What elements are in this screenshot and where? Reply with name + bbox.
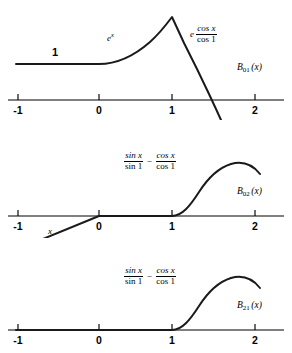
x-tick-label-0: 0 xyxy=(96,334,102,346)
formula-fraction-2: cos x cos 1 xyxy=(155,266,176,287)
x-tick-label-0: 0 xyxy=(96,220,102,232)
series-label-b21: B21(x) xyxy=(237,300,262,310)
plot-svg-b21: -1 0 1 2 xyxy=(0,236,292,353)
formula-operator: − xyxy=(145,157,153,166)
x-tick-label--1: -1 xyxy=(13,334,22,346)
formula-term2-numerator: cos x xyxy=(156,151,176,162)
formula-term1-denominator: sin 1 xyxy=(124,162,143,172)
plot-svg-b01: -1 0 1 2 xyxy=(0,0,292,120)
series-label-base: B xyxy=(237,186,243,196)
series-label-base: B xyxy=(237,300,243,310)
x-tick-label-2: 2 xyxy=(252,104,258,116)
x-label: x xyxy=(48,226,52,236)
formula-lead: e xyxy=(190,30,194,39)
constant-one-label: 1 xyxy=(52,46,58,58)
x-tick-label-2: 2 xyxy=(252,220,258,232)
exp-x-label: ex xyxy=(107,31,114,43)
plot-panel-b01: -1 0 1 2 1 ex e cos x cos 1 B01(x) xyxy=(0,0,292,120)
plot-panel-b02: -1 0 1 2 x sin x sin 1 − cos x cos 1 B02… xyxy=(0,118,292,238)
plot-panel-b21: -1 0 1 2 sin x sin 1 − cos x cos 1 B21(x… xyxy=(0,236,292,353)
series-label-sub: 21 xyxy=(243,304,250,312)
formula-fraction-1: sin x sin 1 xyxy=(124,266,143,287)
formula-numerator: cos x xyxy=(196,24,216,35)
formula-e-cos-label: e cos x cos 1 xyxy=(190,24,217,45)
series-label-sub: 02 xyxy=(243,190,250,198)
formula-sin-cos-label-b21: sin x sin 1 − cos x cos 1 xyxy=(124,266,176,287)
exp-superscript: x xyxy=(111,31,114,38)
formula-operator: − xyxy=(145,272,153,281)
series-label-arg: (x) xyxy=(251,300,262,310)
x-tick-label-0: 0 xyxy=(96,104,102,116)
x-tick-label-1: 1 xyxy=(169,220,175,232)
formula-term1-denominator: sin 1 xyxy=(124,277,143,287)
x-tick-label--1: -1 xyxy=(13,104,22,116)
x-tick-label-2: 2 xyxy=(252,334,258,346)
series-label-sub: 01 xyxy=(243,66,250,74)
formula-fraction-1: sin x sin 1 xyxy=(124,151,143,172)
formula-denominator: cos 1 xyxy=(196,35,217,45)
series-label-arg: (x) xyxy=(251,62,262,72)
curve-b02 xyxy=(16,163,260,238)
formula-sin-cos-label-b02: sin x sin 1 − cos x cos 1 xyxy=(124,151,176,172)
x-tick-label-1: 1 xyxy=(169,104,175,116)
formula-fraction: cos x cos 1 xyxy=(196,24,217,45)
formula-fraction-2: cos x cos 1 xyxy=(155,151,176,172)
series-label-b02: B02(x) xyxy=(237,186,262,196)
formula-term1-numerator: sin x xyxy=(124,266,143,277)
spline-basis-figure: -1 0 1 2 1 ex e cos x cos 1 B01(x) xyxy=(0,0,292,353)
x-tick-label-1: 1 xyxy=(169,334,175,346)
series-label-b01: B01(x) xyxy=(237,62,262,72)
plot-svg-b02: -1 0 1 2 xyxy=(0,118,292,238)
series-label-arg: (x) xyxy=(251,186,262,196)
x-tick-label--1: -1 xyxy=(13,220,22,232)
formula-term2-denominator: cos 1 xyxy=(155,277,176,287)
formula-term1-numerator: sin x xyxy=(124,151,143,162)
formula-term2-numerator: cos x xyxy=(156,266,176,277)
series-label-base: B xyxy=(237,62,243,72)
formula-term2-denominator: cos 1 xyxy=(155,162,176,172)
